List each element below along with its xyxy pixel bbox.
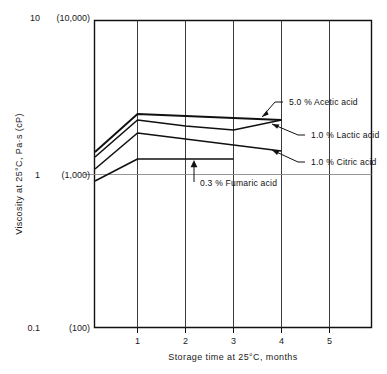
x-tick-label-2: 2: [183, 336, 188, 346]
annotation-label-citric-acid: 1.0 % Citric acid: [311, 157, 377, 167]
x-tick-label-4: 4: [279, 336, 284, 346]
y-tick-label-100-cp: (100): [69, 323, 90, 333]
y-tick-label-10000-cp: (10,000): [56, 13, 90, 23]
y-tick-label-1000-cp: (1,000): [61, 170, 90, 180]
x-tick-label-5: 5: [327, 336, 332, 346]
chart-background: [0, 0, 387, 374]
annotation-label-fumaric-acid: 0.3 % Fumaric acid: [200, 178, 277, 188]
y-tick-label-1: 1: [35, 170, 40, 180]
viscosity-line-chart: 5.0 % Acetic acid 1.0 % Lactic acid 1.0 …: [0, 0, 387, 374]
annotation-label-lactic-acid: 1.0 % Lactic acid: [311, 130, 379, 140]
y-axis-title: Viscosity at 25°C, Pa·s (cP): [14, 113, 24, 235]
y-tick-label-10: 10: [30, 13, 40, 23]
chart-figure: 5.0 % Acetic acid 1.0 % Lactic acid 1.0 …: [0, 0, 387, 374]
x-tick-label-3: 3: [231, 336, 236, 346]
x-axis-title: Storage time at 25°C, months: [168, 352, 297, 362]
y-tick-label-0point1: 0.1: [27, 323, 40, 333]
x-tick-label-1: 1: [135, 336, 140, 346]
annotation-label-acetic-acid: 5.0 % Acetic acid: [289, 97, 358, 107]
